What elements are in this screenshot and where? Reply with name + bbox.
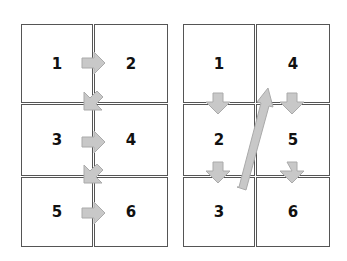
arrow-down-left-icon: [84, 91, 103, 110]
arrow-down-icon: [280, 162, 304, 183]
arrow-right-icon: [82, 131, 105, 153]
arrow-right-icon: [82, 52, 105, 74]
arrow-up-right-long-icon: [237, 88, 273, 190]
arrow-right-icon: [82, 202, 105, 224]
arrow-down-left-icon: [84, 164, 103, 183]
arrow-down-icon: [206, 93, 230, 114]
flow-arrows: [0, 0, 347, 261]
arrow-down-icon: [206, 162, 230, 183]
arrow-down-icon: [280, 93, 304, 114]
